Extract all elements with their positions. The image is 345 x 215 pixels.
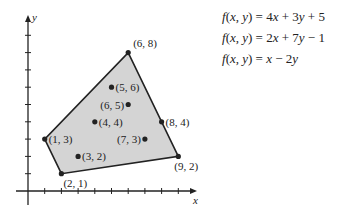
equation-list: f(x, y) = 4x + 3y + 5 f(x, y) = 2x + 7y …	[222, 6, 325, 69]
point-label: (6, 5)	[100, 99, 124, 112]
point-label: (2, 1)	[63, 177, 87, 190]
y-axis-label: y	[31, 11, 37, 23]
data-point	[92, 119, 97, 124]
data-point	[142, 137, 147, 142]
equation-3: f(x, y) = x − 2y	[222, 48, 325, 69]
point-label: (8, 4)	[166, 116, 190, 129]
x-axis-label: x	[192, 194, 198, 206]
y-axis-arrow-icon	[25, 15, 31, 22]
point-label: (1, 3)	[49, 133, 73, 146]
data-point	[42, 137, 47, 142]
point-label: (7, 3)	[117, 133, 141, 146]
data-point	[126, 50, 131, 55]
equation-1: f(x, y) = 4x + 3y + 5	[222, 6, 325, 27]
point-label: (9, 2)	[174, 160, 198, 173]
data-point	[159, 119, 164, 124]
point-label: (3, 2)	[82, 150, 106, 163]
data-point	[76, 154, 81, 159]
data-point	[126, 102, 131, 107]
data-point	[109, 85, 114, 90]
point-label: (5, 6)	[116, 81, 140, 94]
data-point	[176, 154, 181, 159]
feasible-region	[45, 53, 179, 174]
point-label: (4, 4)	[99, 116, 123, 129]
equation-2: f(x, y) = 2x + 7y − 1	[222, 27, 325, 48]
point-label: (6, 8)	[133, 37, 157, 50]
data-point	[59, 171, 64, 176]
